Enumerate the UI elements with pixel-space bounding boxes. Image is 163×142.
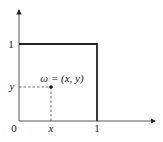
x-tick-label-1: 1	[94, 122, 100, 134]
origin-label: 0	[11, 122, 17, 134]
unit-square-diagram: 1 y 0 x 1 ω = (x, y)	[0, 0, 163, 142]
y-tick-label-1: 1	[8, 38, 14, 50]
x-tick-label-x: x	[48, 122, 54, 134]
point-label: ω = (x, y)	[40, 72, 84, 85]
point-omega	[49, 85, 53, 89]
y-tick-label-y: y	[9, 80, 15, 92]
